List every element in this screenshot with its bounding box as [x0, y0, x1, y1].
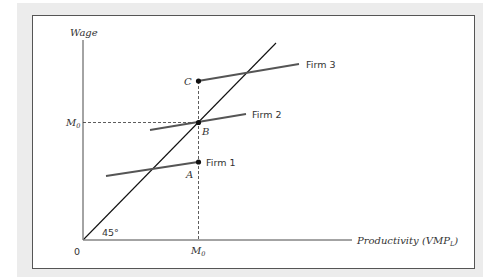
diagram: Wage Productivity (VMPL) 0 45° M0 M0 A B…	[0, 0, 483, 277]
x-axis-label: Productivity (VMPL)	[356, 235, 458, 248]
firm1-line	[106, 162, 198, 176]
angle-label: 45°	[102, 227, 119, 238]
point-a-marker	[196, 159, 201, 164]
y-axis-label: Wage	[70, 27, 98, 38]
point-c-label: C	[184, 76, 192, 87]
firm1-label: Firm 1	[206, 157, 235, 168]
y-tick-m0: M0	[65, 117, 80, 130]
point-c-marker	[196, 78, 201, 83]
point-a-label: A	[185, 169, 193, 180]
point-b-label: B	[201, 126, 209, 137]
origin-label: 0	[74, 246, 80, 257]
x-tick-m0: M0	[190, 245, 205, 258]
firm2-label: Firm 2	[252, 109, 281, 120]
firm3-label: Firm 3	[306, 59, 335, 70]
point-b-marker	[196, 120, 201, 125]
firm3-line	[198, 64, 299, 81]
